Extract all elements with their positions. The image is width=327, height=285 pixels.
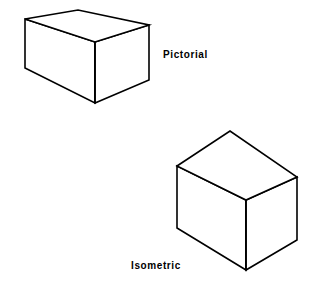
isometric-label: Isometric [131,261,181,271]
pictorial-label: Pictorial [163,50,208,60]
figure-page: { "figure": { "background_color": "#ffff… [0,0,327,285]
isometric-cube-group [177,131,297,270]
pictorial-box-group [25,10,149,103]
technical-drawing-canvas [0,0,327,285]
